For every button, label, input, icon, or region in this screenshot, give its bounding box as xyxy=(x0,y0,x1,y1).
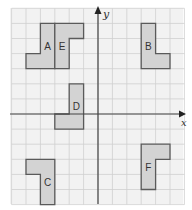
shape-label: B xyxy=(145,41,152,52)
coordinate-grid: AEBDCF x y xyxy=(0,0,192,210)
shape-label: F xyxy=(145,162,151,173)
x-axis-label: x xyxy=(181,117,187,128)
y-axis-label: y xyxy=(102,8,110,21)
shape-label: D xyxy=(73,101,80,112)
shape-label: A xyxy=(44,41,51,52)
shape-label: C xyxy=(44,177,51,188)
shape-label: E xyxy=(59,41,66,52)
